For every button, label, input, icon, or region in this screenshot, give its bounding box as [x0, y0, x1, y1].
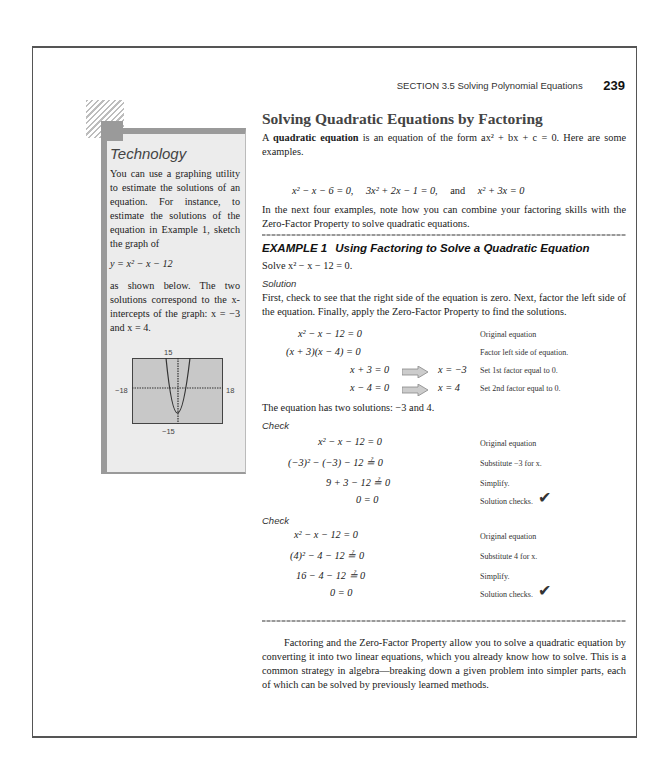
- rule-bottom: [262, 620, 626, 622]
- example-eq-1: x² − x − 6 = 0,: [292, 185, 353, 196]
- arrow-icon: [402, 366, 428, 378]
- check1-eq-2: (−3)² − (−3) − 12 ≟ 0: [288, 456, 383, 468]
- conclusion: The equation has two solutions: −3 and 4…: [262, 401, 626, 415]
- check2-note-2: Substitute 4 for x.: [480, 552, 537, 561]
- step-eq-2: (x + 3)(x − 4) = 0: [286, 346, 361, 357]
- sidebar-para-2: as shown below. The two solutions corres…: [110, 279, 240, 335]
- examples-list: x² − x − 6 = 0, 3x² + 2x − 1 = 0, and x²…: [292, 185, 534, 196]
- sidebar-text: You can use a graphing utility to estima…: [110, 167, 240, 341]
- graph-xmin-label: −18: [115, 386, 128, 395]
- graph-xmax-label: 18: [226, 386, 234, 395]
- check1-eq-1: x² − x − 12 = 0: [318, 436, 382, 447]
- rule-top: [262, 234, 626, 236]
- section-label: SECTION 3.5 Solving Polynomial Equations: [397, 80, 583, 91]
- step-result-4: x = 4: [438, 382, 460, 393]
- check-label-1: Check: [262, 420, 289, 431]
- step-note-2: Factor left side of equation.: [480, 348, 568, 357]
- page-number: 239: [603, 78, 625, 93]
- example-label: EXAMPLE 1: [262, 242, 327, 254]
- check2-eq-2: (4)² − 4 − 12 ≟ 0: [290, 549, 364, 561]
- example-title: Using Factoring to Solve a Quadratic Equ…: [335, 242, 589, 254]
- sidebar-para-1: You can use a graphing utility to estima…: [110, 167, 240, 251]
- sidebar-corner-decoration: [101, 121, 123, 141]
- graph-figure: 15 −18 18 −15: [115, 348, 240, 453]
- check2-eq-4: 0 = 0: [330, 587, 352, 598]
- step-eq-4: x − 4 = 0: [350, 382, 389, 393]
- step-eq-3: x + 3 = 0: [350, 364, 389, 375]
- term-quadratic-equation: quadratic equation: [273, 132, 358, 143]
- check2-eq-3: 16 − 4 − 12 ≟ 0: [296, 569, 365, 581]
- check1-eq-4: 0 = 0: [356, 494, 378, 505]
- transition-paragraph: In the next four examples, note how you …: [262, 203, 626, 231]
- closing-paragraph: Factoring and the Zero-Factor Property a…: [262, 636, 626, 692]
- solution-label: Solution: [262, 278, 296, 289]
- check1-note-2: Substitute −3 for x.: [480, 459, 542, 468]
- check2-eq-1: x² − x − 12 = 0: [294, 529, 358, 540]
- check2-note-1: Original equation: [480, 532, 536, 541]
- sidebar-equation: y = x² − x − 12: [110, 257, 240, 271]
- check1-eq-3: 9 + 3 − 12 ≟ 0: [326, 476, 390, 488]
- check2-note-3: Simplify.: [480, 572, 509, 581]
- running-head: SECTION 3.5 Solving Polynomial Equations…: [340, 78, 625, 93]
- intro-pre: A: [262, 132, 273, 143]
- example-eq-2: 3x² + 2x − 1 = 0,: [366, 185, 438, 196]
- step-note-1: Original equation: [480, 330, 536, 339]
- example-eq-3: x² + 3x = 0: [478, 185, 525, 196]
- example-prompt: Solve x² − x − 12 = 0.: [262, 259, 626, 273]
- check1-note-4: Solution checks.: [480, 497, 533, 506]
- examples-and: and: [450, 185, 465, 196]
- step-note-4: Set 2nd factor equal to 0.: [480, 384, 560, 393]
- solution-text: First, check to see that the right side …: [262, 291, 626, 319]
- section-title: Solving Quadratic Equations by Factoring: [262, 110, 543, 128]
- check1-note-3: Simplify.: [480, 479, 509, 488]
- check1-note-1: Original equation: [480, 439, 536, 448]
- check-label-2: Check: [262, 515, 289, 526]
- graph-ymin-label: −15: [162, 427, 175, 436]
- step-note-3: Set 1st factor equal to 0.: [480, 366, 558, 375]
- sidebar-title: Technology: [110, 145, 186, 162]
- step-result-3: x = −3: [438, 364, 467, 375]
- graph-ymax-label: 15: [164, 348, 172, 357]
- checkmark-icon: ✔: [538, 488, 551, 507]
- step-eq-1: x² − x − 12 = 0: [298, 328, 362, 339]
- checkmark-icon: ✔: [538, 581, 551, 600]
- arrow-icon: [402, 384, 428, 396]
- example-heading: EXAMPLE 1Using Factoring to Solve a Quad…: [262, 242, 590, 254]
- intro-paragraph: A quadratic equation is an equation of t…: [262, 131, 626, 159]
- parabola-graph: [132, 358, 223, 424]
- check2-note-4: Solution checks.: [480, 590, 533, 599]
